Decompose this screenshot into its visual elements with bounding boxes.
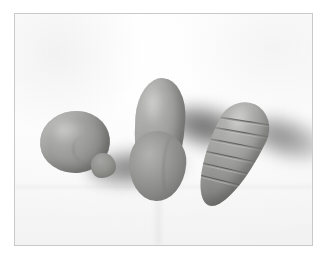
carrot-ridge-groove (198, 149, 263, 164)
photo-frame-border (14, 13, 313, 246)
pear-highlight (143, 86, 166, 123)
carrot-ridge-groove (203, 138, 269, 152)
sphere-nub (91, 153, 116, 178)
photograph-figure (0, 0, 329, 265)
